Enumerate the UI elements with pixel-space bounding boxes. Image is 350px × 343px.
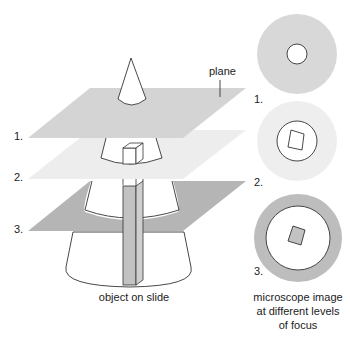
plane-label: plane bbox=[209, 65, 236, 77]
rectangular-prism-column bbox=[123, 181, 143, 285]
microscope-view-3 bbox=[254, 194, 342, 282]
microscope-view-2 bbox=[257, 101, 337, 181]
level-label-1: 1. bbox=[14, 130, 23, 142]
cube-top bbox=[123, 143, 143, 164]
cross-section-square-outline bbox=[288, 130, 304, 150]
cross-section-circle-small bbox=[287, 44, 307, 64]
level-label-3: 3. bbox=[14, 223, 23, 235]
microscope-views: 1. 2. 3. microscope image at different l… bbox=[253, 14, 342, 331]
microscope-caption-line-3: of focus bbox=[279, 319, 318, 331]
microscope-view-1 bbox=[257, 14, 337, 94]
microscope-caption-line-1: microscope image bbox=[253, 291, 342, 303]
level-label-2: 2. bbox=[14, 171, 23, 183]
microscope-caption-line-2: at different levels bbox=[257, 305, 340, 317]
view-label-3: 3. bbox=[254, 265, 263, 277]
view-label-2: 2. bbox=[254, 176, 263, 188]
object-caption: object on slide bbox=[99, 291, 169, 303]
view-label-1: 1. bbox=[254, 93, 263, 105]
cone-tip bbox=[118, 58, 146, 105]
object-on-slide: plane 1. 2. 3. object on slide bbox=[14, 58, 246, 303]
focus-diagram: plane 1. 2. 3. object on slide 1. 2. 3. bbox=[0, 0, 350, 343]
